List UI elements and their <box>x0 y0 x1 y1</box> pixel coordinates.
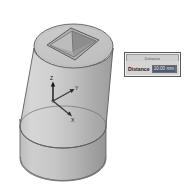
distance-stepper[interactable]: ▲ ▼ <box>175 65 177 73</box>
distance-label: Distance <box>128 66 150 72</box>
distance-dialog[interactable]: Distance Distance 10.00 mm ▲ ▼ <box>124 52 181 77</box>
screenshot-root: Z Y X Distance Distance 10.00 mm ▲ <box>0 0 192 193</box>
model-canvas[interactable]: Z Y X <box>0 0 192 193</box>
3d-viewport[interactable]: Z Y X <box>0 0 192 193</box>
distance-input[interactable]: 10.00 mm ▲ ▼ <box>152 65 177 73</box>
dialog-title: Distance <box>145 56 160 61</box>
stepper-up-icon[interactable]: ▲ <box>176 65 177 69</box>
stepper-down-icon[interactable]: ▼ <box>176 69 177 73</box>
dialog-titlebar[interactable]: Distance <box>126 54 179 61</box>
z-axis-label: Z <box>50 75 53 81</box>
dialog-body: Distance 10.00 mm ▲ ▼ <box>126 62 179 75</box>
distance-value: 10.00 mm <box>153 66 175 72</box>
